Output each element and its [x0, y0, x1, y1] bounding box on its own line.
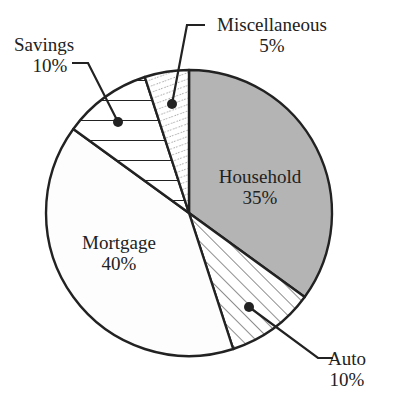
label-mortgage: Mortgage 40% — [64, 232, 174, 274]
auto-name: Auto — [322, 348, 372, 369]
pie-slices — [46, 70, 332, 356]
household-pct: 35% — [200, 187, 320, 208]
misc-pct: 5% — [206, 35, 338, 56]
savings-pct: 10% — [8, 55, 80, 76]
misc-name: Miscellaneous — [206, 14, 338, 35]
label-auto: Auto 10% — [322, 348, 372, 390]
label-savings: Savings 10% — [8, 34, 80, 76]
misc-marker-dot — [167, 99, 177, 109]
auto-marker-dot — [244, 302, 254, 312]
label-misc: Miscellaneous 5% — [206, 14, 338, 56]
savings-name: Savings — [8, 34, 80, 55]
mortgage-name: Mortgage — [64, 232, 174, 253]
household-name: Household — [200, 166, 320, 187]
label-household: Household 35% — [200, 166, 320, 208]
savings-marker-dot — [113, 117, 123, 127]
auto-pct: 10% — [322, 369, 372, 390]
mortgage-pct: 40% — [64, 253, 174, 274]
